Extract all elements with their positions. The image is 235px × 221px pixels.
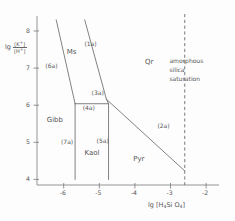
- boundary-label-7a: (7a): [61, 138, 73, 145]
- y-axis-title-prefix: lg: [5, 43, 11, 51]
- y-tick-label: 7: [26, 64, 30, 71]
- boundary-line-6a: [56, 20, 75, 104]
- x-tick-label: -2: [202, 189, 208, 196]
- field-label-ms: Ms: [67, 48, 77, 56]
- x-tick-label: -4: [131, 189, 137, 196]
- boundary-label-3a: (3a): [92, 89, 104, 96]
- y-axis-title-fraction: [K+] [H+]: [13, 41, 27, 54]
- x-tick-label: -5: [95, 189, 101, 196]
- y-tick-label: 4: [26, 175, 30, 182]
- field-label-qr: Qr: [145, 58, 153, 66]
- x-axis-title-mid: Si O: [166, 201, 179, 209]
- boundary-label-6a: (6a): [45, 62, 57, 69]
- saturation-label-line: silica: [169, 66, 184, 73]
- boundary-label-2a: (2a): [157, 122, 169, 129]
- boundary-label-5a: (5a): [97, 137, 109, 144]
- x-axis-title: lg [H4Si O4]: [148, 201, 185, 209]
- saturation-label-line: saturation: [169, 75, 200, 82]
- phase-diagram-figure: lg [K+] [H+] lg [H4Si O4] 45678-6-5-4-3-…: [0, 0, 235, 221]
- x-tick-label: -3: [167, 189, 173, 196]
- y-axis-title: lg [K+] [H+]: [5, 41, 27, 54]
- boundary-line-1a: [85, 20, 107, 99]
- field-label-kaol: Kaol: [84, 149, 99, 157]
- x-axis-title-prefix: lg: [148, 201, 154, 209]
- x-tick-label: -6: [60, 189, 66, 196]
- boundary-label-1a: (1a): [84, 40, 96, 47]
- saturation-label-line: amorphous: [169, 57, 203, 64]
- field-label-gibb: Gibb: [47, 116, 63, 124]
- plot-canvas: [0, 0, 235, 221]
- y-axis-denominator: [H+]: [13, 48, 27, 54]
- y-tick-label: 5: [26, 138, 30, 145]
- field-label-pyr: Pyr: [133, 155, 144, 163]
- y-tick-label: 8: [26, 27, 30, 34]
- boundary-label-4a: (4a): [83, 104, 95, 111]
- x-axis-title-bracket-close: ]: [182, 201, 185, 209]
- boundary-line-2a: [106, 99, 184, 171]
- y-tick-label: 6: [26, 101, 30, 108]
